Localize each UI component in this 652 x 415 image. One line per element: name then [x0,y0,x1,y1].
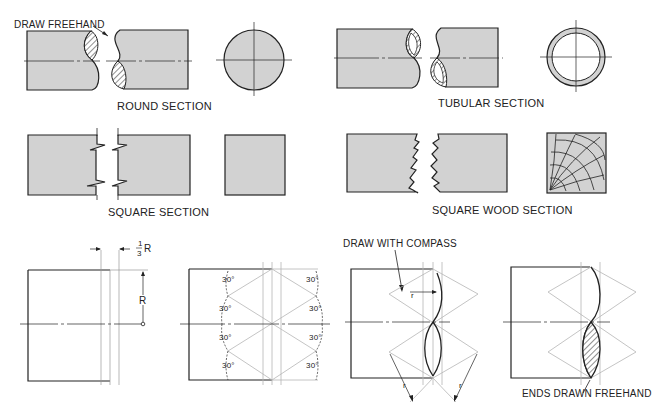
tubular-section: TUBULAR SECTION [334,20,612,109]
svg-text:30°: 30° [306,361,319,370]
square-section: SQUARE SECTION [28,128,285,218]
compass-arc [433,322,441,376]
round-section-caption: ROUND SECTION [117,100,212,112]
one-third-R-label: R [144,243,151,254]
square-wood-section: SQUARE WOOD SECTION [347,133,606,216]
arrowhead-icon [454,395,458,402]
svg-text:30°: 30° [306,275,319,284]
radius-line [455,354,477,400]
draw-freehand-label: DRAW FREEHAND [14,19,105,30]
radius-label: R [139,295,146,306]
step3-outline [351,269,433,378]
arrowhead-icon [432,290,437,294]
arrowhead-icon [141,271,145,276]
square-wood-section-caption: SQUARE WOOD SECTION [432,204,573,216]
svg-text:30°: 30° [219,333,232,342]
construction-step-3: DRAW WITH COMPASS r r r [343,238,478,402]
arrowhead-icon [96,247,101,251]
compass-radius-label: r [403,381,406,390]
conventional-breaks-diagram: DRAW FREEHAND ROUND SECTION TUBULAR SECT… [0,0,652,415]
square-right-piece [112,135,190,195]
arrowhead-icon [119,247,124,251]
draw-with-compass-label: DRAW WITH COMPASS [343,238,457,249]
tubular-section-caption: TUBULAR SECTION [438,97,544,109]
center-point [141,322,145,326]
svg-text:30°: 30° [219,304,232,313]
step1-outline [28,270,110,381]
round-section: DRAW FREEHAND ROUND SECTION [14,19,292,112]
compass-radius-label: r [411,291,414,300]
square-left-piece [28,135,105,195]
svg-text:30°: 30° [309,304,322,313]
svg-text:30°: 30° [222,361,235,370]
wood-left-piece [347,134,419,193]
radius-line [390,354,412,400]
svg-text:30°: 30° [309,333,322,342]
fraction-numerator: 1 [138,239,143,248]
wood-right-piece [431,134,507,192]
svg-text:30°: 30° [222,275,235,284]
construction-step-1: R 1 3 R [20,239,151,385]
construction-step-2: 30° 30° 30° 30° 30° 30° 30° 30° [180,262,330,385]
square-end-view [225,135,285,195]
leader-line [395,250,402,290]
ends-drawn-freehand-label: ENDS DRAWN FREEHAND [522,388,652,399]
compass-radius-label: r [459,381,462,390]
construction-lines [228,262,318,385]
construction-step-4: ENDS DRAWN FREEHAND [503,262,652,399]
step4-outline [511,267,590,378]
arrowhead-icon [102,31,108,36]
fraction-denominator: 3 [137,249,142,258]
square-section-caption: SQUARE SECTION [108,206,209,218]
hatched-section [583,322,600,378]
